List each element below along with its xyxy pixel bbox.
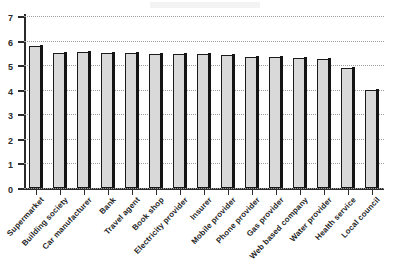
x-axis-tick <box>372 190 373 195</box>
bar <box>365 90 379 188</box>
bar-slot <box>317 16 331 188</box>
x-axis-label: Bank <box>98 196 117 216</box>
x-axis-tick <box>252 190 253 195</box>
x-axis-tick <box>300 190 301 195</box>
bar-slot <box>365 16 379 188</box>
bar-slot <box>221 16 235 188</box>
bar <box>293 58 307 188</box>
bar-shadow <box>64 52 67 187</box>
scan-artifact <box>150 2 260 8</box>
y-axis-tick-label: 7 <box>8 14 13 23</box>
bar-slot <box>269 16 283 188</box>
bar-slot <box>101 16 115 188</box>
bar-slot <box>173 16 187 188</box>
bar-shadow <box>280 56 283 187</box>
bar-shadow <box>112 52 115 187</box>
y-axis-tick-label: 0 <box>8 186 13 195</box>
x-axis-tick <box>276 190 277 195</box>
bar <box>53 53 67 188</box>
bar-slot <box>245 16 259 188</box>
gridline <box>24 188 384 189</box>
bar <box>149 54 163 188</box>
bar <box>317 59 331 188</box>
y-axis-tick: 0 <box>18 188 24 190</box>
x-axis-tick <box>180 190 181 195</box>
x-axis-tick <box>60 190 61 195</box>
bar-shadow <box>328 58 331 187</box>
bar-shadow <box>160 53 163 187</box>
bar-shadow <box>232 54 235 187</box>
x-axis-tick <box>132 190 133 195</box>
bar-slot <box>149 16 163 188</box>
bar-slot <box>293 16 307 188</box>
bar-shadow <box>376 89 379 187</box>
bar <box>77 52 91 188</box>
bar-shadow <box>352 67 355 187</box>
x-axis-tick <box>36 190 37 195</box>
bar <box>341 68 355 188</box>
bar <box>125 53 139 188</box>
bar-slot <box>341 16 355 188</box>
bar-slot <box>125 16 139 188</box>
y-axis-tick-label: 1 <box>8 161 13 170</box>
x-axis-tick <box>228 190 229 195</box>
y-axis-tick-label: 6 <box>8 38 13 47</box>
bar <box>197 54 211 188</box>
bar <box>245 57 259 188</box>
bar-shadow <box>184 53 187 187</box>
bar-shadow <box>304 57 307 187</box>
x-axis-tick <box>156 190 157 195</box>
x-axis-tick <box>108 190 109 195</box>
bars-layer <box>24 16 384 188</box>
bar-shadow <box>208 53 211 187</box>
bar-slot <box>77 16 91 188</box>
y-axis-tick-label: 4 <box>8 87 13 96</box>
x-axis-label: Car manufacturer <box>41 196 93 251</box>
bar <box>173 54 187 188</box>
bar-slot <box>197 16 211 188</box>
y-axis-tick-label: 3 <box>8 112 13 121</box>
bar-shadow <box>136 52 139 187</box>
bar <box>269 57 283 188</box>
bar-shadow <box>40 45 43 188</box>
bar <box>221 55 235 188</box>
bar-slot <box>29 16 43 188</box>
bar-shadow <box>88 51 91 187</box>
plot-area: 01234567 <box>24 16 384 188</box>
x-axis-tick <box>324 190 325 195</box>
x-axis-tick <box>348 190 349 195</box>
bar-shadow <box>256 56 259 187</box>
y-axis-tick-label: 2 <box>8 136 13 145</box>
bar <box>101 53 115 188</box>
x-axis-tick <box>204 190 205 195</box>
x-axis-tick <box>84 190 85 195</box>
y-axis-tick-label: 5 <box>8 63 13 72</box>
bar <box>29 46 43 189</box>
bar-slot <box>53 16 67 188</box>
